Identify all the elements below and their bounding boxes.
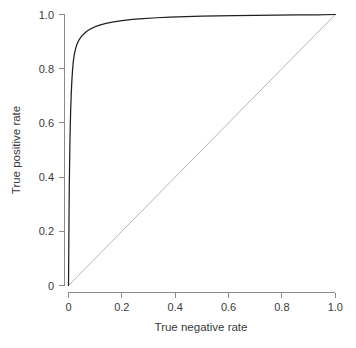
y-axis-ticks: [59, 15, 65, 286]
y-axis-title: True positive rate: [10, 106, 22, 194]
x-tick-label-1: 0.2: [114, 301, 129, 313]
y-tick-label-4: 0.8: [39, 63, 54, 75]
x-tick-label-4: 0.8: [274, 301, 289, 313]
y-tick-label-5: 1.0: [39, 9, 54, 21]
x-tick-label-2: 0.4: [168, 301, 183, 313]
y-tick-label-3: 0.6: [39, 117, 54, 129]
x-axis-title: True negative rate: [155, 321, 248, 333]
roc-chart-canvas: 0 0.2 0.4 0.6 0.8 1.0 0 0.2 0.4 0.6 0.8 …: [0, 0, 356, 348]
y-tick-label-1: 0.2: [39, 225, 54, 237]
roc-plot-figure: 0 0.2 0.4 0.6 0.8 1.0 0 0.2 0.4 0.6 0.8 …: [0, 0, 356, 348]
y-tick-label-2: 0.4: [39, 171, 54, 183]
x-axis-ticks: [69, 293, 336, 299]
chance-diagonal-line: [69, 15, 336, 286]
y-tick-label-0: 0: [48, 280, 54, 292]
x-tick-label-5: 1.0: [328, 301, 343, 313]
x-tick-label-0: 0: [65, 301, 71, 313]
x-tick-label-3: 0.6: [221, 301, 236, 313]
